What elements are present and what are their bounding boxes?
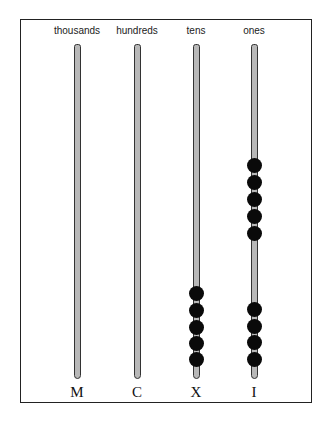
numeral-label-M: M <box>62 384 92 401</box>
bead-ones <box>247 175 262 190</box>
numeral-label-C: C <box>122 384 152 401</box>
bead-ones <box>247 302 262 317</box>
bead-ones <box>247 335 262 350</box>
bead-tens <box>189 352 204 367</box>
numeral-label-X: X <box>181 384 211 401</box>
rod-thousands <box>74 44 81 379</box>
rod-hundreds <box>134 44 141 379</box>
abacus-frame <box>20 19 312 403</box>
bead-tens <box>189 303 204 318</box>
bead-ones <box>247 158 262 173</box>
bead-ones <box>247 319 262 334</box>
bead-ones <box>247 192 262 207</box>
bead-ones <box>247 352 262 367</box>
bead-tens <box>189 320 204 335</box>
bead-tens <box>189 336 204 351</box>
bead-ones <box>247 226 262 241</box>
bead-tens <box>189 286 204 301</box>
bead-ones <box>247 209 262 224</box>
numeral-label-I: I <box>239 384 269 401</box>
column-header-ones: ones <box>214 25 294 36</box>
